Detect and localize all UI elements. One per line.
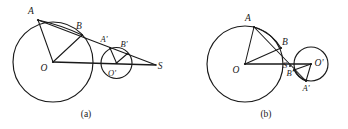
panel-a-segment-Oprime-Aprime (110, 48, 117, 63)
panel-b-label-O: O (233, 65, 240, 75)
panel-a-segment-O-S (53, 62, 156, 65)
panel-a-point-Bprime (126, 53, 128, 55)
panel-b-label-A: A (244, 13, 251, 23)
panel-a-transversal-A-S (38, 20, 156, 65)
panel-b-segment-O-B (245, 48, 281, 64)
geometry-figure: A B A' B' O O' S (a) (0, 0, 348, 129)
panel-b-segment-Oprime-Bprime (294, 64, 311, 70)
panel-b-label-Aprime: A' (301, 83, 309, 93)
panel-a-point-Aprime (109, 47, 111, 49)
panel-a-label-O: O (41, 63, 48, 73)
panel-a-label-B: B (76, 21, 82, 31)
panel-b-segment-O-A (245, 27, 254, 64)
panel-b-transversal-A-Aprime (254, 27, 306, 81)
panel-a-point-A (37, 19, 39, 21)
panel-a-label-Bprime: B' (120, 39, 127, 49)
panel-a-label-A: A (27, 6, 34, 16)
panel-b-point-Oprime (310, 63, 312, 65)
panel-b-point-A (253, 26, 255, 28)
panel-b-label-Bprime: B' (286, 68, 293, 78)
panel-b-point-Aprime (305, 80, 307, 82)
panel-a-label-Oprime: O' (108, 68, 116, 78)
panel-b-point-B (280, 47, 282, 49)
panel-b-caption: (b) (260, 109, 271, 120)
panel-a-point-Oprime (116, 62, 118, 64)
panel-b-point-O (244, 63, 246, 65)
panel-b-label-Oprime: O' (315, 58, 325, 68)
panel-b: A B S B' A' O O' (b) (207, 13, 328, 120)
panel-a-label-Aprime: A' (99, 34, 107, 44)
figure-container: A B A' B' O O' S (a) (0, 0, 348, 129)
panel-a-segment-O-B (53, 35, 82, 62)
panel-b-label-B: B (282, 37, 288, 47)
panel-b-point-S (289, 65, 291, 67)
panel-a-caption: (a) (81, 109, 92, 120)
panel-a-point-O (52, 61, 54, 63)
panel-a-label-S: S (158, 61, 163, 71)
panel-a-segment-Oprime-Bprime (117, 54, 128, 63)
panel-a-point-B (81, 34, 83, 36)
panel-a-segment-O-A (38, 20, 53, 62)
panel-b-segment-Oprime-Aprime (306, 64, 311, 81)
panel-b-chord-A-B (254, 27, 281, 48)
panel-a: A B A' B' O O' S (a) (13, 6, 163, 120)
